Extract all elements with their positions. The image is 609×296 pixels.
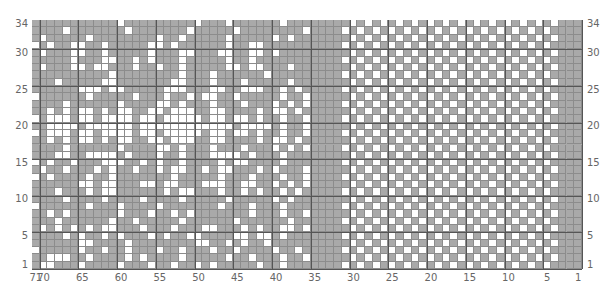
chart-cell bbox=[543, 27, 551, 34]
chart-cell bbox=[443, 35, 451, 42]
chart-cell bbox=[47, 247, 55, 254]
chart-cell bbox=[373, 57, 381, 64]
chart-cell bbox=[512, 145, 520, 152]
chart-cell bbox=[311, 240, 319, 247]
chart-cell bbox=[171, 181, 179, 188]
chart-cell bbox=[218, 181, 226, 188]
chart-cell bbox=[218, 188, 226, 195]
chart-cell bbox=[86, 181, 94, 188]
chart-cell bbox=[388, 218, 396, 225]
chart-cell bbox=[443, 137, 451, 144]
chart-cell bbox=[342, 203, 350, 210]
row-label-right: 20 bbox=[587, 121, 600, 131]
chart-cell bbox=[520, 93, 528, 100]
chart-cell bbox=[233, 130, 241, 137]
chart-cell bbox=[55, 218, 63, 225]
chart-cell bbox=[280, 181, 288, 188]
chart-cell bbox=[272, 115, 280, 122]
chart-cell bbox=[551, 145, 559, 152]
chart-cell bbox=[342, 166, 350, 173]
chart-cell bbox=[419, 101, 427, 108]
column-label: 25 bbox=[386, 273, 399, 283]
chart-cell bbox=[551, 93, 559, 100]
chart-cell bbox=[559, 262, 567, 269]
chart-cell bbox=[458, 64, 466, 71]
chart-cell bbox=[551, 35, 559, 42]
chart-cell bbox=[303, 247, 311, 254]
chart-cell bbox=[117, 218, 125, 225]
chart-cell bbox=[334, 64, 342, 71]
chart-cell bbox=[489, 64, 497, 71]
chart-cell bbox=[164, 27, 172, 34]
chart-cell bbox=[443, 181, 451, 188]
chart-cell bbox=[567, 115, 575, 122]
chart-cell bbox=[551, 27, 559, 34]
chart-cell bbox=[373, 247, 381, 254]
chart-cell bbox=[489, 79, 497, 86]
chart-cell bbox=[365, 57, 373, 64]
chart-cell bbox=[257, 210, 265, 217]
chart-cell bbox=[326, 145, 334, 152]
chart-cell bbox=[125, 159, 133, 166]
chart-cell bbox=[543, 254, 551, 261]
chart-cell bbox=[133, 210, 141, 217]
chart-cell bbox=[210, 20, 218, 27]
chart-cell bbox=[357, 57, 365, 64]
chart-cell bbox=[497, 20, 505, 27]
chart-cell bbox=[32, 218, 40, 225]
chart-cell bbox=[288, 203, 296, 210]
chart-cell bbox=[497, 57, 505, 64]
chart-cell bbox=[102, 181, 110, 188]
chart-cell bbox=[458, 174, 466, 181]
chart-cell bbox=[55, 71, 63, 78]
chart-cell bbox=[567, 71, 575, 78]
chart-cell bbox=[94, 35, 102, 42]
chart-cell bbox=[474, 49, 482, 56]
chart-cell bbox=[474, 115, 482, 122]
chart-cell bbox=[427, 181, 435, 188]
chart-cell bbox=[319, 232, 327, 239]
chart-cell bbox=[210, 93, 218, 100]
chart-cell bbox=[233, 86, 241, 93]
chart-cell bbox=[543, 93, 551, 100]
chart-cell bbox=[419, 108, 427, 115]
chart-cell bbox=[164, 79, 172, 86]
chart-cell bbox=[357, 20, 365, 27]
chart-cell bbox=[187, 86, 195, 93]
chart-cell bbox=[520, 79, 528, 86]
chart-cell bbox=[342, 188, 350, 195]
chart-cell bbox=[133, 27, 141, 34]
chart-cell bbox=[78, 247, 86, 254]
chart-cell bbox=[404, 210, 412, 217]
chart-cell bbox=[435, 254, 443, 261]
chart-cell bbox=[47, 79, 55, 86]
chart-cell bbox=[520, 20, 528, 27]
chart-cell bbox=[47, 145, 55, 152]
chart-cell bbox=[512, 27, 520, 34]
chart-cell bbox=[55, 210, 63, 217]
chart-cell bbox=[86, 240, 94, 247]
chart-cell bbox=[497, 71, 505, 78]
chart-cell bbox=[412, 210, 420, 217]
chart-cell bbox=[133, 64, 141, 71]
chart-cell bbox=[249, 57, 257, 64]
chart-cell bbox=[512, 57, 520, 64]
chart-cell bbox=[78, 181, 86, 188]
chart-cell bbox=[233, 159, 241, 166]
chart-cell bbox=[357, 101, 365, 108]
chart-cell bbox=[32, 145, 40, 152]
chart-cell bbox=[63, 35, 71, 42]
chart-cell bbox=[528, 64, 536, 71]
chart-cell bbox=[520, 35, 528, 42]
chart-cell bbox=[342, 79, 350, 86]
chart-cell bbox=[543, 71, 551, 78]
chart-cell bbox=[443, 232, 451, 239]
chart-cell bbox=[427, 203, 435, 210]
chart-cell bbox=[396, 254, 404, 261]
chart-cell bbox=[388, 181, 396, 188]
chart-cell bbox=[567, 159, 575, 166]
chart-cell bbox=[187, 262, 195, 269]
chart-cell bbox=[47, 49, 55, 56]
chart-cell bbox=[86, 130, 94, 137]
chart-cell bbox=[280, 174, 288, 181]
